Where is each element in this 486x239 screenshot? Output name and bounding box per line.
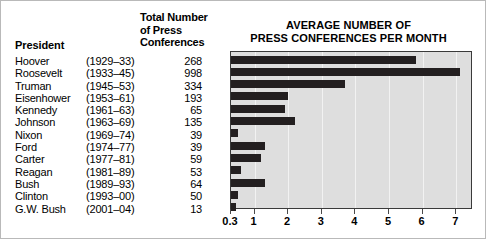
x-axis-tick [230,209,231,214]
table-row: Kennedy(1961–63)65 [1,104,226,116]
cell-president-name: Roosevelt [15,67,62,79]
table-row: Ford(1974–77)39 [1,141,226,153]
cell-term-years: (1989–93) [86,178,134,190]
bar [231,166,241,174]
bar [231,129,238,137]
bar-row [231,164,473,176]
x-axis-tick [287,209,288,214]
cell-president-name: Carter [15,153,44,165]
cell-term-years: (1993–00) [86,190,134,202]
x-axis-tick-label: 4 [351,215,357,227]
bar [231,68,460,76]
cell-total-conferences: 334 [140,80,202,92]
table-row: Carter(1977–81)59 [1,153,226,165]
cell-total-conferences: 39 [140,141,202,153]
bar-row [231,90,473,102]
cell-president-name: Johnson [15,116,55,128]
table-row: Bush(1989–93)64 [1,178,226,190]
cell-term-years: (1953–61) [86,92,134,104]
chart-title: AVERAGE NUMBER OF PRESS CONFERENCES PER … [226,19,471,45]
cell-term-years: (1969–74) [86,129,134,141]
column-header-total-line-2: of Press [140,24,222,37]
bar-row [231,189,473,201]
bar-row [231,103,473,115]
table-row: G.W. Bush(2001–04)13 [1,203,226,215]
bar-row [231,177,473,189]
table-row: Reagan(1981–89)53 [1,166,226,178]
cell-term-years: (1945–53) [86,80,134,92]
x-axis-tick-label: 5 [385,215,391,227]
bar-row [231,54,473,66]
table-body: Hoover(1929–33)268Roosevelt(1933–45)998T… [1,55,226,215]
cell-president-name: G.W. Bush [15,203,66,215]
cell-total-conferences: 193 [140,92,202,104]
cell-total-conferences: 50 [140,190,202,202]
bar [231,80,345,88]
table-row: Truman(1945–53)334 [1,80,226,92]
x-axis-tick [321,209,322,214]
x-axis-tick-label: 3 [318,215,324,227]
column-header-president: President [15,39,64,51]
bar-chart: AVERAGE NUMBER OF PRESS CONFERENCES PER … [226,1,486,239]
column-header-total-line-3: Conferences [140,36,222,49]
cell-total-conferences: 64 [140,178,202,190]
x-axis-tick-label: 2 [284,215,290,227]
bar [231,105,285,113]
x-axis-tick-label: 1 [250,215,256,227]
cell-president-name: Bush [15,178,39,190]
x-axis-tick-label: 7 [452,215,458,227]
bar-row [231,115,473,127]
cell-term-years: (2001–04) [86,203,134,215]
cell-total-conferences: 59 [140,153,202,165]
x-axis-tick [354,209,355,214]
bar [231,154,261,162]
bar-row [231,78,473,90]
cell-president-name: Hoover [15,55,49,67]
table-row: Clinton(1993–00)50 [1,190,226,202]
cell-term-years: (1961–63) [86,104,134,116]
x-axis-tick-label: 6 [419,215,425,227]
cell-president-name: Reagan [15,166,52,178]
presidents-table: President Total Number of Press Conferen… [1,1,226,239]
cell-president-name: Nixon [15,129,42,141]
bar [231,56,416,64]
bar-row [231,140,473,152]
cell-term-years: (1963–69) [86,116,134,128]
cell-president-name: Kennedy [15,104,57,116]
x-axis-tick [388,209,389,214]
table-row: Hoover(1929–33)268 [1,55,226,67]
bar [231,142,265,150]
x-axis-tick [455,209,456,214]
x-axis-tick [422,209,423,214]
column-header-total-line-1: Total Number [140,11,222,24]
cell-total-conferences: 268 [140,55,202,67]
x-axis-tick [254,209,255,214]
cell-total-conferences: 65 [140,104,202,116]
cell-total-conferences: 135 [140,116,202,128]
table-row: Nixon(1969–74)39 [1,129,226,141]
bar [231,117,295,125]
chart-title-line-2: PRESS CONFERENCES PER MONTH [226,32,471,45]
cell-total-conferences: 53 [140,166,202,178]
cell-president-name: Truman [15,80,51,92]
plot-area [230,51,472,209]
bar [231,92,288,100]
x-axis: 0.31234567 [230,209,472,239]
table-row: Eisenhower(1953–61)193 [1,92,226,104]
chart-title-line-1: AVERAGE NUMBER OF [226,19,471,32]
cell-total-conferences: 39 [140,129,202,141]
bar-row [231,127,473,139]
cell-term-years: (1929–33) [86,55,134,67]
x-axis-tick-label: 0.3 [222,215,237,227]
table-row: Roosevelt(1933–45)998 [1,67,226,79]
cell-total-conferences: 998 [140,67,202,79]
cell-president-name: Clinton [15,190,48,202]
bar-row [231,66,473,78]
bar-row [231,152,473,164]
cell-president-name: Eisenhower [15,92,70,104]
press-conferences-figure: President Total Number of Press Conferen… [0,0,486,239]
table-row: Johnson(1963–69)135 [1,116,226,128]
bar [231,179,265,187]
cell-term-years: (1981–89) [86,166,134,178]
cell-total-conferences: 13 [140,203,202,215]
